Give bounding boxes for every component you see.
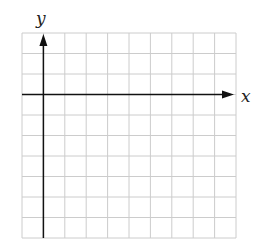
x-axis-label: x <box>241 86 251 106</box>
coordinate-plane: x y <box>0 0 260 244</box>
y-axis-label: y <box>35 8 46 28</box>
x-axis-arrowhead-icon <box>222 91 234 99</box>
y-axis-arrowhead-icon <box>39 34 47 46</box>
grid-lines <box>22 33 236 238</box>
